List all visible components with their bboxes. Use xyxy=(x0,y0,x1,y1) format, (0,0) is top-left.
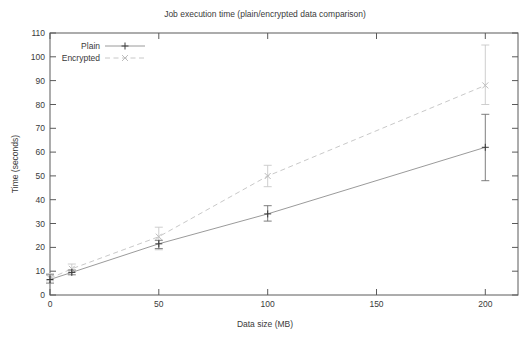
y-tick-70: 70 xyxy=(36,123,518,133)
y-axis-title: Time (seconds) xyxy=(10,135,20,193)
y-tick-label: 0 xyxy=(40,290,45,300)
legend-label-encrypted: Encrypted xyxy=(62,53,101,63)
y-tick-100: 100 xyxy=(31,52,518,62)
y-tick-label: 40 xyxy=(36,195,46,205)
y-tick-60: 60 xyxy=(36,147,518,157)
chart-title: Job execution time (plain/encrypted data… xyxy=(164,9,366,19)
y-tick-40: 40 xyxy=(36,195,518,205)
legend-swatch-plain xyxy=(105,43,145,50)
chart-screenshot: Job execution time (plain/encrypted data… xyxy=(0,0,530,341)
x-axis-title: Data size (MB) xyxy=(237,319,293,329)
series-encrypted xyxy=(46,45,489,281)
y-tick-20: 20 xyxy=(36,242,518,252)
y-tick-label: 20 xyxy=(36,242,46,252)
x-tick-150: 150 xyxy=(369,33,383,309)
encrypted-errorbars xyxy=(46,45,489,281)
y-tick-label: 60 xyxy=(36,147,46,157)
x-tick-50: 50 xyxy=(154,33,164,309)
y-tick-label: 10 xyxy=(36,266,46,276)
x-tick-label: 50 xyxy=(154,299,164,309)
plain-errorbars xyxy=(46,114,489,283)
y-tick-80: 80 xyxy=(36,100,518,110)
legend: Plain Encrypted xyxy=(62,41,145,63)
y-tick-label: 100 xyxy=(31,52,45,62)
x-tick-label: 100 xyxy=(261,299,275,309)
y-tick-30: 30 xyxy=(36,219,518,229)
y-tick-10: 10 xyxy=(36,266,518,276)
y-tick-label: 70 xyxy=(36,123,46,133)
x-axis: 0 50 100 150 200 xyxy=(48,33,493,309)
y-tick-label: 90 xyxy=(36,76,46,86)
plot-frame xyxy=(50,33,518,295)
x-tick-label: 200 xyxy=(478,299,492,309)
y-tick-label: 50 xyxy=(36,171,46,181)
legend-label-plain: Plain xyxy=(81,41,100,51)
x-tick-label: 0 xyxy=(48,299,53,309)
x-tick-label: 150 xyxy=(369,299,383,309)
series-plain xyxy=(46,114,489,283)
y-tick-label: 80 xyxy=(36,100,46,110)
chart-canvas: Job execution time (plain/encrypted data… xyxy=(0,0,530,341)
legend-swatch-encrypted xyxy=(105,55,145,61)
y-tick-label: 30 xyxy=(36,219,46,229)
y-tick-90: 90 xyxy=(36,76,518,86)
plain-markers xyxy=(47,144,489,283)
y-tick-label: 110 xyxy=(31,28,45,38)
y-axis: 0 10 20 30 40 xyxy=(31,28,518,300)
